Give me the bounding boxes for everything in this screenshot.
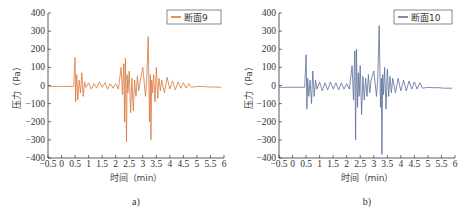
y-tick-label: −100	[256, 99, 276, 109]
panel-label: b)	[363, 196, 371, 208]
x-tick-label: 6	[453, 159, 458, 169]
chart-a-svg: 4003002001000−100−200−300−400−0.500.511.…	[0, 0, 232, 217]
y-tick-label: 200	[31, 44, 46, 54]
y-tick-label: −200	[25, 117, 45, 127]
x-tick-label: −0.5	[270, 159, 287, 169]
y-tick-label: 400	[262, 8, 277, 18]
x-tick-label: 0	[290, 159, 295, 169]
x-tick-label: 0	[59, 159, 64, 169]
y-tick-label: 300	[262, 26, 277, 36]
x-tick-label: 4.5	[408, 159, 420, 169]
x-tick-label: 0.5	[300, 159, 312, 169]
x-axis-title: 时间（min）	[341, 172, 394, 183]
y-tick-label: 400	[31, 8, 46, 18]
y-tick-label: 0	[40, 81, 45, 91]
y-tick-label: −200	[256, 117, 276, 127]
x-tick-label: 4.5	[177, 159, 189, 169]
x-tick-label: 1	[86, 159, 91, 169]
y-axis-title: 压力（Pa）	[243, 62, 254, 109]
x-tick-label: 5	[426, 159, 431, 169]
y-tick-label: 200	[262, 44, 277, 54]
legend-label: 断面10	[411, 12, 441, 23]
data-series-line	[279, 26, 452, 155]
x-tick-label: 5	[195, 159, 200, 169]
panel-label: a)	[132, 196, 140, 208]
x-tick-label: 3.5	[150, 159, 162, 169]
y-tick-label: 100	[262, 62, 277, 72]
y-axis-title: 压力（Pa）	[11, 62, 22, 109]
x-tick-label: 3	[371, 159, 376, 169]
x-tick-label: 2.5	[123, 159, 135, 169]
x-tick-label: 5.5	[205, 159, 217, 169]
data-series-line	[48, 37, 221, 142]
x-tick-label: 1.5	[327, 159, 339, 169]
y-tick-label: −300	[256, 135, 276, 145]
x-tick-label: 2	[344, 159, 349, 169]
y-tick-label: 0	[271, 81, 276, 91]
y-tick-label: −100	[25, 99, 45, 109]
x-tick-label: 6	[222, 159, 227, 169]
chart-panel-a: 4003002001000−100−200−300−400−0.500.511.…	[0, 0, 232, 217]
x-tick-label: 3	[140, 159, 145, 169]
y-tick-label: 100	[31, 62, 46, 72]
legend-label: 断面9	[184, 12, 208, 23]
x-tick-label: 1.5	[96, 159, 108, 169]
chart-panel-b: 4003002001000−100−200−300−400−0.500.511.…	[232, 0, 464, 217]
x-tick-label: 5.5	[436, 159, 448, 169]
x-tick-label: 2	[113, 159, 118, 169]
x-tick-label: 0.5	[69, 159, 81, 169]
y-tick-label: −300	[25, 135, 45, 145]
chart-b-svg: 4003002001000−100−200−300−400−0.500.511.…	[232, 0, 464, 217]
x-tick-label: 4	[398, 159, 403, 169]
x-tick-label: 4	[167, 159, 172, 169]
x-tick-label: −0.5	[39, 159, 56, 169]
x-tick-label: 3.5	[381, 159, 393, 169]
y-tick-label: 300	[31, 26, 46, 36]
x-tick-label: 2.5	[354, 159, 366, 169]
x-tick-label: 1	[317, 159, 322, 169]
x-axis-title: 时间（min）	[110, 172, 163, 183]
